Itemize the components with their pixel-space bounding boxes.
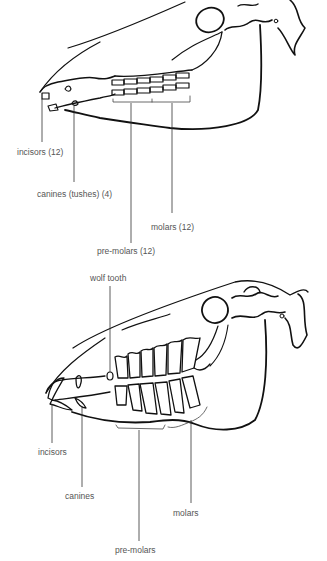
label-molars: molars [173, 509, 199, 518]
label-canines-tushes-4: canines (tushes) (4) [37, 190, 112, 199]
label-pre-molars-12: pre-molars (12) [97, 247, 155, 256]
label-pre-molars: pre-molars [115, 546, 156, 555]
label-incisors: incisors [38, 448, 67, 457]
label-canines: canines [65, 492, 94, 501]
label-wolf-tooth: wolf tooth [90, 274, 126, 283]
label-molars-12: molars (12) [151, 223, 194, 232]
label-incisors-12: incisors (12) [17, 148, 63, 157]
horse-dentition-diagram: incisors (12) canines (tushes) (4) molar… [0, 0, 327, 561]
bottom-leader-lines [0, 0, 327, 561]
